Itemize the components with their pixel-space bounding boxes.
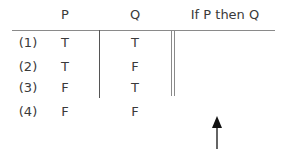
header-p: P	[61, 7, 69, 23]
cell-q: F	[131, 104, 138, 120]
header-if-p-then-q: If P then Q	[191, 7, 259, 23]
cell-q: F	[131, 59, 138, 75]
header-divider	[12, 30, 275, 31]
row-label: (3)	[19, 80, 37, 96]
cell-p: T	[61, 59, 69, 75]
cell-q: T	[131, 35, 139, 51]
cell-p: F	[61, 104, 68, 120]
row-label: (4)	[19, 104, 37, 120]
row-label: (2)	[19, 59, 37, 75]
double-divider-right	[174, 30, 175, 96]
cell-p: F	[61, 80, 68, 96]
column-divider	[99, 30, 100, 98]
header-q: Q	[130, 7, 140, 23]
cell-q: T	[131, 80, 139, 96]
cell-p: T	[61, 35, 69, 51]
row-label: (1)	[19, 35, 37, 51]
double-divider-left	[171, 30, 172, 96]
up-arrow-icon	[211, 116, 223, 150]
